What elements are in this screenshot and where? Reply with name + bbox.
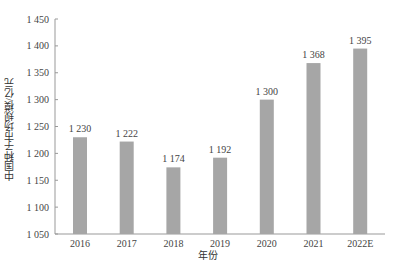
- bar: [353, 49, 367, 234]
- bar: [213, 158, 227, 234]
- x-tick-label: 2016: [70, 238, 90, 249]
- y-tick-label: 1 100: [27, 202, 50, 213]
- bar: [120, 142, 134, 234]
- bar-value-label: 1 192: [209, 144, 232, 155]
- bar: [307, 63, 321, 234]
- y-tick-label: 1 450: [27, 14, 50, 25]
- y-tick-label: 1 350: [27, 67, 50, 78]
- y-tick-label: 1 200: [27, 148, 50, 159]
- bar-value-label: 1 368: [302, 49, 325, 60]
- x-tick-label: 2022E: [347, 238, 373, 249]
- bar-chart: 1 0501 1001 1501 2001 2501 3001 3501 400…: [0, 0, 398, 272]
- bar-value-label: 1 395: [349, 35, 372, 46]
- x-axis-label: 年份: [198, 247, 218, 262]
- chart-canvas: 1 0501 1001 1501 2001 2501 3001 3501 400…: [0, 0, 398, 272]
- x-tick-label: 2020: [257, 238, 277, 249]
- y-tick-label: 1 150: [27, 175, 50, 186]
- y-tick-label: 1 050: [27, 229, 50, 240]
- y-tick-label: 1 400: [27, 40, 50, 51]
- bar-value-label: 1 174: [162, 153, 185, 164]
- bar-value-label: 1 230: [69, 123, 92, 134]
- bar: [73, 137, 87, 234]
- bar: [166, 167, 180, 234]
- y-axis-label: 中国种子市场规模/亿元: [2, 60, 22, 200]
- x-tick-label: 2017: [117, 238, 137, 249]
- y-tick-label: 1 250: [27, 121, 50, 132]
- bar-value-label: 1 300: [256, 86, 279, 97]
- x-tick-label: 2021: [304, 238, 324, 249]
- bar: [260, 100, 274, 234]
- bar-value-label: 1 222: [115, 128, 138, 139]
- y-tick-label: 1 300: [27, 94, 50, 105]
- x-tick-label: 2018: [163, 238, 183, 249]
